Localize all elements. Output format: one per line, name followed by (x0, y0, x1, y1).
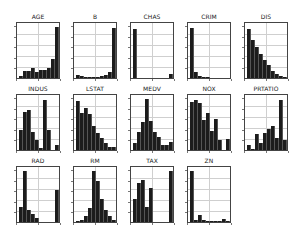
y-tick (185, 58, 187, 59)
histogram-prtatio: PRTATIO (244, 84, 288, 155)
histogram-crim: CRIM (187, 12, 231, 83)
x-tick (117, 223, 118, 225)
gridline (95, 23, 96, 78)
gridline (188, 45, 230, 46)
y-tick (71, 68, 73, 69)
histogram-bar (283, 77, 287, 78)
y-tick (14, 202, 16, 203)
x-tick (152, 151, 153, 153)
gridline (188, 211, 230, 212)
y-tick (128, 68, 130, 69)
histogram-bar (112, 220, 116, 222)
y-tick (14, 37, 16, 38)
histogram-bar (55, 190, 59, 222)
gridline (17, 45, 59, 46)
x-tick (95, 151, 96, 153)
y-tick (242, 109, 244, 110)
histogram-bar (55, 27, 59, 78)
x-tick (209, 151, 210, 153)
x-tick (16, 79, 17, 81)
y-tick (185, 212, 187, 213)
x-tick (209, 223, 210, 225)
histogram-nox: NOX (187, 84, 231, 155)
gridline (74, 45, 116, 46)
plot-area (187, 22, 231, 79)
y-tick (71, 170, 73, 171)
histogram-bar (169, 74, 173, 78)
histogram-bar (112, 147, 116, 150)
y-tick (14, 58, 16, 59)
y-tick (242, 119, 244, 120)
histogram-medv: MEDV (130, 84, 174, 155)
x-tick (209, 79, 210, 81)
y-tick (185, 140, 187, 141)
gridline (17, 56, 59, 57)
y-tick (185, 98, 187, 99)
y-tick (14, 140, 16, 141)
gridline (131, 34, 173, 35)
x-tick (187, 79, 188, 81)
y-tick (185, 181, 187, 182)
histogram-title: CHAS (130, 13, 174, 20)
y-tick (128, 109, 130, 110)
x-tick (231, 79, 232, 81)
histogram-lstat: LSTAT (73, 84, 117, 155)
y-tick (71, 109, 73, 110)
histogram-title: ZN (187, 157, 231, 164)
y-tick (71, 140, 73, 141)
histogram-bar (226, 139, 230, 150)
x-tick (130, 151, 131, 153)
x-tick (174, 151, 175, 153)
y-tick (185, 26, 187, 27)
gridline (188, 67, 230, 68)
x-tick (266, 79, 267, 81)
histogram-zn: ZN (187, 156, 231, 227)
x-tick (95, 79, 96, 81)
x-tick (60, 79, 61, 81)
x-tick (244, 79, 245, 81)
gridline (74, 56, 116, 57)
histogram-title: B (73, 13, 117, 20)
plot-area (130, 22, 174, 79)
y-tick (128, 130, 130, 131)
histogram-bar (47, 130, 51, 150)
plot-area (130, 166, 174, 223)
y-tick (128, 26, 130, 27)
histogram-title: NOX (187, 85, 231, 92)
histogram-bar (35, 218, 39, 222)
y-tick (185, 119, 187, 120)
y-tick (71, 119, 73, 120)
histogram-rad: RAD (16, 156, 60, 227)
plot-area (73, 94, 117, 151)
x-tick (95, 223, 96, 225)
y-tick (242, 37, 244, 38)
histogram-title: AGE (16, 13, 60, 20)
histogram-bar (133, 29, 137, 78)
x-tick (73, 79, 74, 81)
histogram-title: RM (73, 157, 117, 164)
y-tick (14, 212, 16, 213)
y-tick (242, 58, 244, 59)
y-tick (14, 191, 16, 192)
y-tick (71, 212, 73, 213)
histogram-title: PRTATIO (244, 85, 288, 92)
gridline (17, 106, 59, 107)
x-tick (130, 223, 131, 225)
histogram-title: LSTAT (73, 85, 117, 92)
y-tick (14, 98, 16, 99)
y-tick (185, 37, 187, 38)
y-tick (14, 130, 16, 131)
x-tick (288, 151, 289, 153)
histogram-title: DIS (244, 13, 288, 20)
y-tick (128, 170, 130, 171)
x-tick (38, 79, 39, 81)
plot-area (130, 94, 174, 151)
y-tick (128, 212, 130, 213)
y-tick (71, 130, 73, 131)
x-tick (231, 223, 232, 225)
gridline (131, 45, 173, 46)
histogram-bar (112, 28, 116, 78)
gridline (74, 106, 116, 107)
y-tick (128, 47, 130, 48)
y-tick (14, 109, 16, 110)
